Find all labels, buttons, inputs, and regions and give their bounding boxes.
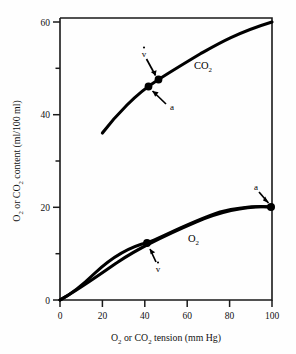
- x-tick-label-100: 100: [265, 311, 280, 321]
- y-axis-ticks: [53, 22, 60, 300]
- y-tick-labels: 0 20 40 60: [41, 18, 51, 306]
- series-label-co2: CO2: [194, 60, 213, 73]
- point-label-o2-arterial: a: [254, 182, 258, 192]
- plot-frame: [60, 18, 272, 300]
- x-tick-label-40: 40: [140, 311, 150, 321]
- y-tick-label-40: 40: [41, 110, 51, 120]
- vdot-overdot-o2: [157, 261, 159, 263]
- x-tick-label-80: 80: [225, 311, 235, 321]
- point-label-o2-venous: v: [156, 261, 161, 274]
- chart-svg: 0 20 40 60 0 20 40 60 80 100: [0, 0, 296, 354]
- x-axis-title: O2 or CO2 tension (mm Hg): [111, 332, 221, 345]
- x-tick-label-20: 20: [98, 311, 108, 321]
- x-axis-ticks: [60, 300, 272, 307]
- y-tick-label-60: 60: [41, 18, 51, 28]
- x-tick-label-0: 0: [58, 311, 63, 321]
- series-curve-o2: [60, 207, 272, 300]
- y-tick-label-20: 20: [41, 203, 51, 213]
- point-label-co2-venous-text: v: [142, 49, 147, 59]
- point-label-o2-venous-text: v: [156, 264, 161, 274]
- marker-o2-arterial: [267, 203, 275, 211]
- marker-co2-venous: [155, 76, 163, 84]
- annotation-arrow-o2-venous: [150, 249, 156, 262]
- y-axis-title: O2 or CO2 content (ml/100 ml): [11, 100, 24, 221]
- markers-o2: [143, 203, 275, 247]
- figure-container: 0 20 40 60 0 20 40 60 80 100: [0, 0, 296, 354]
- point-label-co2-arterial: a: [170, 102, 174, 112]
- annotation-arrow-o2-arterial: [259, 192, 269, 203]
- annotation-arrow-co2-arterial: [153, 91, 167, 104]
- marker-co2-arterial: [145, 83, 153, 91]
- chart-canvas: 0 20 40 60 0 20 40 60 80 100: [0, 0, 296, 354]
- x-tick-label-60: 60: [182, 311, 192, 321]
- x-tick-labels: 0 20 40 60 80 100: [58, 311, 280, 321]
- series-label-o2: O2: [188, 233, 200, 246]
- series-curve-co2: [102, 22, 272, 133]
- y-tick-label-0: 0: [45, 296, 50, 306]
- annotation-arrow-co2-venous: [147, 59, 157, 76]
- vdot-overdot-co2: [143, 46, 145, 48]
- marker-o2-venous: [143, 239, 151, 247]
- point-label-co2-venous: v: [142, 46, 147, 59]
